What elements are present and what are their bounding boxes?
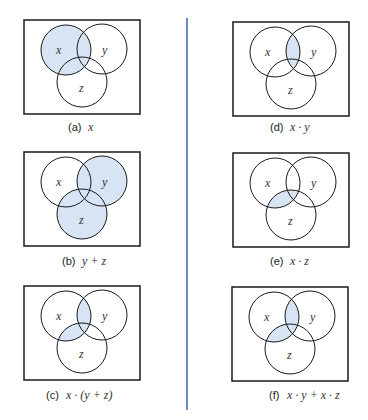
caption-c-expr: x · (y + z) xyxy=(65,388,112,402)
label-x: x xyxy=(264,176,271,190)
caption-b-tag: (b) xyxy=(62,255,75,267)
label-z: z xyxy=(78,347,84,361)
caption-c-tag: (c) xyxy=(46,389,59,401)
caption-e-expr: x · z xyxy=(289,254,309,268)
label-y: y xyxy=(310,176,317,190)
caption-f-tag: (f) xyxy=(269,389,279,401)
venn-diagrams: x y z (a) x x y z (b) y + z x y z (c) x … xyxy=(0,0,368,420)
panel-e: x y z xyxy=(233,153,349,247)
label-y: y xyxy=(309,310,316,324)
label-z: z xyxy=(287,83,293,97)
panel-d: x y z xyxy=(233,22,349,116)
panel-f: x y z xyxy=(232,287,348,381)
label-z: z xyxy=(286,348,292,362)
label-x: x xyxy=(263,310,270,324)
label-z: z xyxy=(287,214,293,228)
caption-e-tag: (e) xyxy=(270,255,283,267)
label-y: y xyxy=(101,309,108,323)
caption-a-expr: x xyxy=(87,120,94,134)
label-z: z xyxy=(78,81,84,95)
label-y: y xyxy=(310,45,317,59)
label-z: z xyxy=(78,213,84,227)
panel-a: x y z xyxy=(24,20,140,114)
panel-b: x y z xyxy=(24,152,140,246)
label-x: x xyxy=(55,43,62,57)
caption-a-tag: (a) xyxy=(68,121,81,133)
panel-c: x y z xyxy=(24,286,140,380)
caption-d-expr: x · y xyxy=(289,120,310,134)
label-y: y xyxy=(101,175,108,189)
label-x: x xyxy=(264,45,271,59)
caption-b-expr: y + z xyxy=(81,254,106,268)
caption-f-expr: x · y + x · z xyxy=(286,388,340,402)
label-y: y xyxy=(101,43,108,57)
caption-d-tag: (d) xyxy=(270,121,283,133)
label-x: x xyxy=(55,175,62,189)
label-x: x xyxy=(55,309,62,323)
